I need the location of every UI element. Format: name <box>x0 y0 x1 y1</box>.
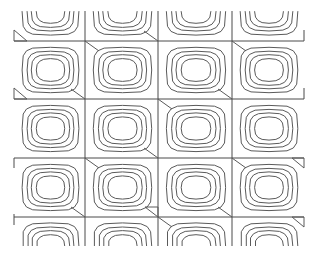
saddle-tick <box>232 41 246 51</box>
saddle-tick <box>218 207 232 217</box>
contour-line-partial <box>98 11 146 31</box>
contour-line-partial <box>27 11 74 31</box>
contour-line <box>250 172 289 203</box>
saddle-tick <box>71 207 85 217</box>
contour-line <box>22 164 79 210</box>
contour-line <box>255 59 284 82</box>
contour-line <box>172 168 221 206</box>
saddle-tick <box>158 99 172 109</box>
contour-line <box>176 172 216 203</box>
contour-line <box>22 105 79 151</box>
contour-line <box>103 113 142 144</box>
saddle-triangle <box>145 207 158 217</box>
contour-line <box>27 109 74 147</box>
contour-line <box>98 51 146 89</box>
contour-line-partial <box>172 11 221 31</box>
contour-line <box>176 55 216 86</box>
contour-line <box>36 176 64 199</box>
contour-line <box>108 117 137 140</box>
saddle-triangle <box>292 158 304 168</box>
contour-line <box>93 105 151 151</box>
contour-line-partial <box>28 227 74 246</box>
contour-line <box>166 164 225 210</box>
contour-line <box>98 109 146 147</box>
contour-line <box>250 55 289 86</box>
contour-line <box>27 168 74 206</box>
contour-line <box>245 51 293 89</box>
contour-line <box>166 47 225 92</box>
saddle-tick <box>158 217 172 227</box>
contour-line <box>93 164 151 210</box>
contour-line <box>98 168 146 206</box>
saddle-tick <box>218 89 232 99</box>
contour-line <box>245 109 293 147</box>
contour-line-partial <box>256 235 284 246</box>
contour-line <box>31 113 69 144</box>
contour-line <box>245 168 293 206</box>
contour-line <box>108 176 137 199</box>
contour-line <box>103 172 142 203</box>
contour-line-partial <box>109 235 137 246</box>
saddle-triangle <box>14 88 27 99</box>
contour-line-partial <box>182 235 211 246</box>
contour-line <box>255 117 284 140</box>
contour-line <box>108 59 137 82</box>
contour-plot <box>0 0 312 256</box>
contour-line <box>181 59 211 82</box>
saddle-tick <box>232 158 246 168</box>
contour-line <box>240 47 298 92</box>
contour-line <box>31 55 69 86</box>
contour-line-partial <box>245 11 293 31</box>
contour-line <box>240 164 298 210</box>
contour-line <box>93 47 151 92</box>
contour-line <box>172 109 221 147</box>
contour-line <box>103 55 142 86</box>
contour-line <box>166 105 225 151</box>
contour-line <box>36 117 64 140</box>
contour-line <box>31 172 69 203</box>
saddle-tick <box>85 158 99 168</box>
contour-line-partial <box>255 11 284 23</box>
contour-line-partial <box>36 11 64 23</box>
contour-line <box>22 47 79 92</box>
contour-line-partial <box>37 235 65 246</box>
saddle-tick <box>71 89 85 99</box>
contour-line <box>240 105 298 151</box>
contour-line <box>250 113 289 144</box>
contour-line-partial <box>173 227 221 246</box>
saddle-triangle <box>292 217 304 227</box>
contour-line-partial <box>108 11 137 23</box>
contour-line-partial <box>99 227 146 246</box>
contour-line <box>172 51 221 89</box>
contour-line <box>36 59 64 82</box>
contour-line <box>255 176 284 199</box>
contour-line <box>176 113 216 144</box>
contour-line <box>181 117 211 140</box>
saddle-tick <box>144 148 158 158</box>
saddle-triangle <box>14 30 27 41</box>
contour-line <box>27 51 74 89</box>
contour-line-partial <box>181 11 211 23</box>
contour-plot-canvas <box>0 0 312 256</box>
saddle-tick <box>85 41 99 51</box>
contour-line-partial <box>246 227 292 246</box>
saddle-tick <box>144 31 158 41</box>
contour-line <box>181 176 211 199</box>
